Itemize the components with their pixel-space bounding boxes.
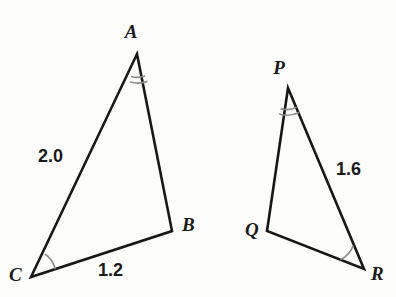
vertex-label-c: C: [9, 264, 22, 285]
triangle-pqr: P Q R 1.6: [245, 57, 384, 284]
side-length-cb: 1.2: [98, 260, 123, 280]
angle-arc-p-outer: [279, 112, 299, 115]
vertex-label-p: P: [272, 57, 285, 78]
angle-arc-r: [340, 246, 353, 260]
vertex-label-b: B: [181, 214, 195, 235]
side-length-ca: 2.0: [38, 146, 63, 166]
angle-mark-c: [45, 254, 55, 269]
triangle-abc: A B C 2.0 1.2: [9, 21, 195, 285]
angle-arc-p-inner: [281, 107, 297, 109]
angle-mark-r: [340, 246, 353, 260]
vertex-label-q: Q: [245, 219, 259, 240]
vertex-label-a: A: [124, 21, 138, 42]
angle-mark-a: [130, 76, 148, 83]
angle-arc-c: [45, 254, 55, 269]
vertex-label-r: R: [370, 263, 384, 284]
angle-arc-a-inner: [131, 76, 145, 77]
angle-arc-a-outer: [130, 81, 148, 83]
similar-triangles-figure: A B C 2.0 1.2 P Q R 1.6: [0, 0, 396, 297]
angle-mark-p: [279, 107, 299, 115]
geometry-canvas: A B C 2.0 1.2 P Q R 1.6: [0, 0, 396, 297]
side-length-pr: 1.6: [336, 159, 361, 179]
